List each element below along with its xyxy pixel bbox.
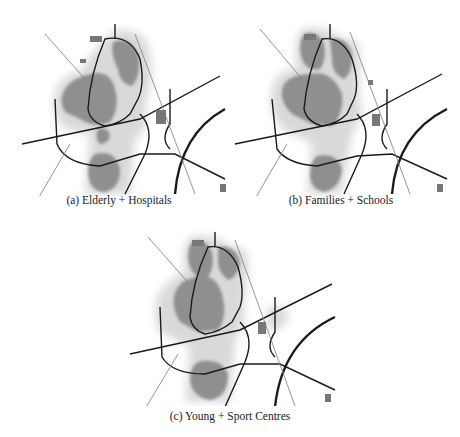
heatmap-map-c	[120, 222, 340, 406]
map-panel-families-schools	[232, 14, 450, 196]
caption-b: (b) Families + Schools	[232, 194, 450, 206]
heatmap-map-a	[10, 14, 228, 196]
map-panel-elderly-hospitals	[10, 14, 228, 196]
caption-c: (c) Young + Sport Centres	[120, 410, 340, 422]
heatmap-map-b	[232, 14, 450, 196]
map-panel-young-sport-centres	[120, 222, 340, 406]
caption-a: (a) Elderly + Hospitals	[10, 194, 228, 206]
